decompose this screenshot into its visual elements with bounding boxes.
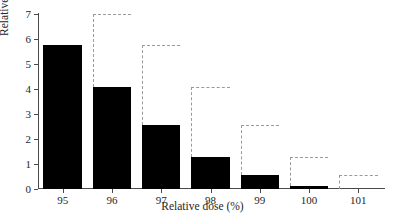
x-axis-tick [63,189,64,193]
y-axis-tick-label: 3 [26,109,32,120]
outline-step-horizontal [290,157,328,158]
bar [241,175,279,189]
outline-step-vertical [93,14,94,87]
y-axis-tick [34,164,38,165]
y-axis-tick-label: 0 [26,184,32,195]
y-axis-tick [34,64,38,65]
bar [191,157,229,189]
outline-step-vertical [241,125,242,175]
bar [93,87,131,190]
y-axis-tick [34,39,38,40]
y-axis-tick-label: 6 [26,34,32,45]
x-axis-tick [211,189,212,193]
y-axis-tick-label: 1 [26,159,32,170]
x-axis-tick [161,189,162,193]
y-axis-tick-label: 7 [26,9,32,20]
y-axis-tick [34,14,38,15]
bar [142,125,180,189]
outline-step-vertical [142,45,143,125]
bar [290,186,328,189]
y-axis-tick-label: 5 [26,59,32,70]
outline-step-horizontal [241,125,279,126]
y-axis-tick [34,189,38,190]
y-axis-tick [34,89,38,90]
y-axis-tick-label: 2 [26,134,32,145]
outline-step-vertical [290,157,291,186]
x-axis-tick [112,189,113,193]
outline-step-horizontal [93,14,131,15]
y-axis-tick-label: 4 [26,84,32,95]
x-axis-tick [358,189,359,193]
x-axis-tick [309,189,310,193]
bar-chart: 012345679596979899100101 Relative dose (… [0,0,405,216]
outline-step-horizontal [142,45,180,46]
y-axis-title: Relative volume (%) [0,0,10,48]
bar [43,45,81,189]
outline-step-vertical [339,175,340,189]
y-axis-tick [34,139,38,140]
y-axis-tick [34,114,38,115]
plot-area: 012345679596979899100101 [38,14,383,189]
x-axis-title: Relative dose (%) [0,200,405,212]
outline-step-horizontal [191,87,229,88]
x-axis-tick [260,189,261,193]
outline-step-horizontal [339,175,377,176]
outline-step-vertical [191,87,192,158]
